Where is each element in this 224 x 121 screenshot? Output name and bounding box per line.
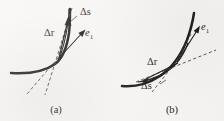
panel-b-caption: (b) (166, 104, 179, 116)
panel-a-caption: (a) (50, 104, 62, 116)
panel-b-label-delta-r: Δr (147, 56, 158, 67)
figure-root: Δr Δs e1 (a) (0, 0, 224, 121)
panel-a-label-delta-r: Δr (44, 27, 55, 38)
panel-a-label-delta-s: Δs (80, 6, 91, 17)
panel-b-label-delta-s: Δs (141, 80, 152, 91)
figure-canvas: Δr Δs e1 (a) (0, 0, 224, 121)
